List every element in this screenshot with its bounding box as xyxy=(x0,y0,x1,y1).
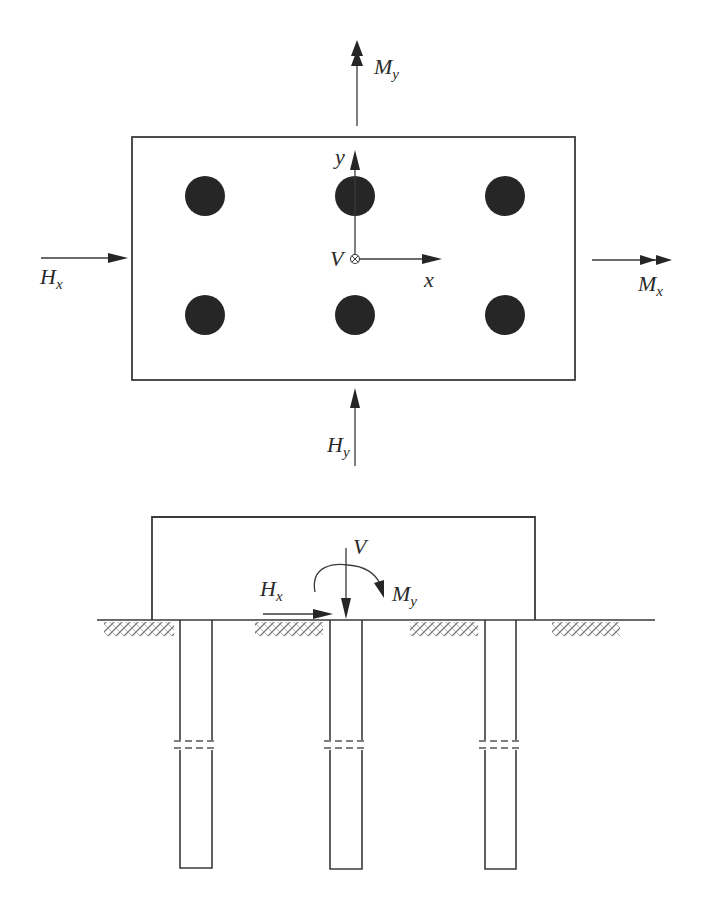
label-my-plan: My xyxy=(373,54,399,82)
force-hx-arrow-elevation: Hx xyxy=(259,576,333,619)
pile xyxy=(485,620,516,869)
x-axis: x xyxy=(359,254,442,292)
pile-circle xyxy=(485,295,525,335)
elevation-view: V My Hx xyxy=(97,517,655,869)
label-my-elevation: My xyxy=(391,581,417,609)
pile xyxy=(330,620,362,869)
break-mark xyxy=(324,741,368,748)
label-hx-plan: Hx xyxy=(39,264,63,292)
label-hy-plan: Hy xyxy=(326,432,350,460)
force-hy-arrow-plan: Hy xyxy=(326,388,360,466)
moment-my-curved-arrow: My xyxy=(314,564,417,609)
pile-circle xyxy=(185,176,225,216)
pile-circle xyxy=(335,295,375,335)
pile-circle xyxy=(185,295,225,335)
origin-label-v: V xyxy=(330,246,346,271)
x-axis-label: x xyxy=(423,267,434,292)
piles-elevation xyxy=(180,620,516,869)
moment-my-arrow: My xyxy=(351,40,399,126)
break-mark xyxy=(174,741,218,748)
force-hx-arrow-plan: Hx xyxy=(39,253,128,292)
label-v-elevation: V xyxy=(353,534,369,559)
pile-circle xyxy=(485,176,525,216)
break-mark xyxy=(479,741,522,748)
label-mx-plan: Mx xyxy=(637,271,663,299)
y-axis-label: y xyxy=(333,144,345,169)
pile xyxy=(180,620,212,868)
pile-foundation-diagram: My y x V Hx xyxy=(0,0,711,905)
moment-mx-arrow: Mx xyxy=(592,255,672,299)
label-hx-elevation: Hx xyxy=(259,576,283,604)
force-v-arrow-elevation: V xyxy=(341,534,369,619)
pile-break-marks xyxy=(174,741,522,748)
plan-view: My y x V Hx xyxy=(39,40,672,466)
